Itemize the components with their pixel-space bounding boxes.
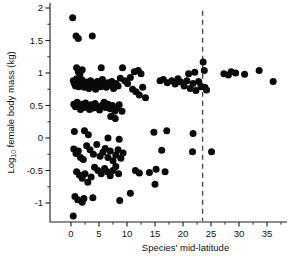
data-point [119, 64, 126, 71]
data-point [89, 194, 96, 201]
data-point [120, 149, 127, 156]
x-tick-label: 10 [122, 228, 133, 239]
data-point [201, 67, 208, 74]
data-point [71, 128, 78, 135]
data-point [185, 70, 192, 77]
data-point [80, 156, 87, 163]
x-tick-label: 0 [68, 228, 73, 239]
data-point [232, 70, 239, 77]
data-point [183, 77, 190, 84]
data-point [116, 197, 123, 204]
y-tick-label: 1.5 [30, 35, 43, 46]
x-tick-label: 25 [206, 228, 217, 239]
data-point [152, 181, 159, 188]
data-point [158, 147, 165, 154]
data-point [69, 14, 76, 21]
data-point [203, 86, 210, 93]
data-point [136, 92, 143, 99]
y-tick-label: -1 [35, 197, 43, 208]
y-axis-title: Log10 female body mass (kg) [5, 51, 17, 173]
data-point [93, 141, 100, 148]
data-point [80, 195, 87, 202]
data-point [88, 174, 95, 181]
y-tick-label: 1 [38, 67, 43, 78]
data-point [75, 35, 82, 42]
data-point [136, 170, 143, 177]
data-point [190, 130, 197, 137]
data-point [191, 69, 198, 76]
axes-group [50, 3, 287, 222]
x-tick-label: 5 [96, 228, 101, 239]
data-point [115, 83, 122, 90]
data-point [90, 151, 97, 158]
data-point [82, 170, 89, 177]
data-point [256, 67, 263, 74]
data-points-group [69, 14, 276, 219]
x-tick-label: 15 [150, 228, 161, 239]
x-tick-label: 20 [178, 228, 189, 239]
data-point [241, 71, 248, 78]
tick-labels-group: -1-0.500.511.520510152025303540 [27, 2, 287, 238]
data-point [118, 108, 125, 115]
data-point [112, 163, 119, 170]
data-point [85, 131, 92, 138]
data-point [116, 101, 123, 108]
x-tick-label: 30 [234, 228, 245, 239]
data-point [162, 168, 169, 175]
data-point [89, 32, 96, 39]
data-point [116, 136, 123, 143]
data-point [70, 213, 77, 220]
data-point [124, 80, 131, 87]
data-point [208, 148, 215, 155]
data-point [153, 166, 160, 173]
data-point [150, 129, 157, 136]
data-point [189, 148, 196, 155]
data-point [79, 66, 86, 73]
data-point [163, 127, 170, 134]
data-point [98, 64, 105, 71]
data-point [200, 58, 207, 65]
data-point [75, 148, 82, 155]
data-point [142, 94, 149, 101]
data-point [146, 169, 153, 176]
data-point [112, 115, 119, 122]
tick-marks-group [46, 8, 288, 227]
data-point [138, 70, 145, 77]
data-point [115, 170, 122, 177]
y-tick-label: 0 [38, 132, 43, 143]
plot-canvas: -1-0.500.511.520510152025303540 Species'… [0, 0, 287, 267]
y-tick-label: 2 [38, 2, 43, 13]
data-point [127, 190, 134, 197]
data-point [104, 135, 111, 142]
x-axis-title: Species' mid-latitude [142, 242, 229, 253]
x-tick-label: 35 [262, 228, 273, 239]
data-point [139, 84, 146, 91]
y-tick-label: 0.5 [30, 100, 43, 111]
data-point [270, 78, 277, 85]
y-tick-label: -0.5 [27, 165, 43, 176]
scatter-plot-figure: -1-0.500.511.520510152025303540 Species'… [0, 0, 287, 267]
